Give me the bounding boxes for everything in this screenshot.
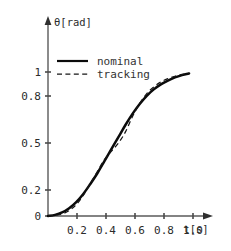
x-tick-label-0.4: 0.4 [96, 224, 116, 237]
chart-figure: 1 0.8 0.5 0.2 0 0.2 0.4 0.6 0.8 1.0 θ[ra… [0, 0, 231, 251]
y-axis-label: θ[rad] [54, 16, 92, 28]
series-tracking [48, 73, 189, 216]
y-tick-label-1: 1 [34, 66, 41, 79]
y-tick-label-0.8: 0.8 [21, 90, 41, 103]
x-tick-label-0.2: 0.2 [67, 224, 87, 237]
series-nominal [48, 73, 189, 216]
x-tick-label-0.8: 0.8 [154, 224, 174, 237]
x-axis-label: t[s] [183, 223, 208, 235]
y-axis-arrow-icon [45, 16, 52, 25]
x-tick-label-0.6: 0.6 [125, 224, 145, 237]
x-axis-arrow-icon [203, 212, 213, 219]
y-tick-label-0.2: 0.2 [21, 184, 41, 197]
plot-area: 1 0.8 0.5 0.2 0 0.2 0.4 0.6 0.8 1.0 θ[ra… [0, 0, 231, 251]
y-tick-label-0.5: 0.5 [21, 137, 41, 150]
legend-label-nominal: nominal [97, 55, 143, 68]
y-tick-label-0: 0 [34, 210, 41, 223]
chart-legend: nominal tracking [57, 55, 150, 81]
legend-label-tracking: tracking [97, 68, 150, 81]
